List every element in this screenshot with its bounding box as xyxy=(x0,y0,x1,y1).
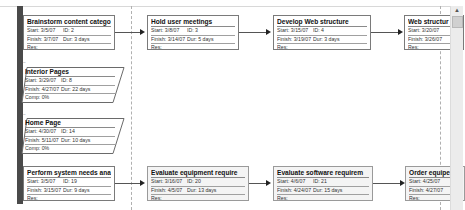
arrow-head-icon xyxy=(266,180,271,186)
finish-value: 4/24/07 xyxy=(294,187,311,193)
start-value: 3/8/07 xyxy=(165,27,179,33)
dur-label: Dur: xyxy=(61,137,71,143)
res-label: Res: xyxy=(151,195,162,203)
summary-name: Interior Pages xyxy=(25,67,115,77)
dependency-link xyxy=(372,183,402,184)
dur-label: Dur: xyxy=(187,187,197,193)
arrow-head-icon xyxy=(398,29,403,35)
finish-value: 3/7/07 xyxy=(44,36,58,42)
dur-value: 3 days xyxy=(74,36,89,42)
arrow-head-icon xyxy=(140,29,145,35)
task-name: Evaluate equipment require xyxy=(151,167,245,178)
dur-value: 3 days xyxy=(324,36,339,42)
task-node[interactable]: Evaluate software requirem Start: 4/6/07… xyxy=(273,166,373,201)
comp-label: Comp: xyxy=(25,94,40,102)
finish-value: 3/19/07 xyxy=(294,36,311,42)
dur-label: Dur: xyxy=(63,187,73,193)
res-label: Res: xyxy=(277,44,288,52)
task-node[interactable]: Evaluate equipment require Start: 3/16/0… xyxy=(147,166,249,201)
start-value: 3/5/07 xyxy=(41,27,55,33)
collapse-toggle-icon[interactable]: − xyxy=(23,59,26,65)
dur-value: 9 days xyxy=(74,187,89,193)
finish-label: Finish: xyxy=(27,187,42,193)
finish-label: Finish: xyxy=(277,187,292,193)
finish-label: Finish: xyxy=(277,36,292,42)
dur-value: 10 days xyxy=(72,137,90,143)
dur-value: 15 days xyxy=(324,187,342,193)
start-value: 4/30/07 xyxy=(39,128,56,134)
dependency-link xyxy=(248,183,268,184)
finish-value: 3/26/07 xyxy=(425,36,442,42)
id-value: 20 xyxy=(195,178,201,184)
id-value: 8 xyxy=(69,77,72,83)
scroll-thumb[interactable] xyxy=(452,16,463,28)
task-name: Perform system needs analy xyxy=(27,167,111,178)
finish-label: Finish: xyxy=(151,36,166,42)
comp-value: 0% xyxy=(42,145,50,153)
id-label: ID: xyxy=(313,27,320,33)
summary-node[interactable]: Interior Pages Start: 3/29/07ID: 8 Finis… xyxy=(21,67,125,103)
res-label: Res: xyxy=(408,44,419,52)
start-value: 4/25/07 xyxy=(423,178,440,184)
arrow-head-icon xyxy=(266,29,271,35)
id-label: ID: xyxy=(313,178,320,184)
dependency-link xyxy=(114,183,142,184)
task-name: Develop Web structure xyxy=(277,16,367,27)
task-node[interactable]: Perform system needs analy Start: 3/5/07… xyxy=(23,166,115,201)
task-node[interactable]: Hold user meetings Start: 3/8/07ID: 3 Fi… xyxy=(147,15,239,50)
id-value: 21 xyxy=(321,178,327,184)
task-node[interactable]: Brainstorm content categori Start: 3/5/0… xyxy=(23,15,115,50)
id-label: ID: xyxy=(61,128,68,134)
dur-value: 22 days xyxy=(72,86,90,92)
finish-value: 4/27/07 xyxy=(42,86,59,92)
start-label: Start: xyxy=(408,27,420,33)
res-label: Res: xyxy=(277,195,288,203)
start-label: Start: xyxy=(277,178,289,184)
id-label: ID: xyxy=(63,178,70,184)
vertical-scrollbar[interactable]: ▲ xyxy=(450,6,463,210)
task-name: Hold user meetings xyxy=(151,16,235,27)
top-border xyxy=(0,0,462,7)
finish-label: Finish: xyxy=(27,36,42,42)
res-label: Res: xyxy=(27,44,38,52)
finish-value: 5/11/07 xyxy=(42,137,59,143)
finish-label: Finish: xyxy=(409,187,424,193)
id-value: 4 xyxy=(321,27,324,33)
id-label: ID: xyxy=(63,27,70,33)
task-name: Brainstorm content categori xyxy=(27,16,111,27)
collapse-toggle-icon[interactable]: − xyxy=(23,111,26,117)
summary-node[interactable]: Home Page Start: 4/30/07ID: 14 Finish: 5… xyxy=(21,118,125,154)
start-label: Start: xyxy=(409,178,421,184)
start-label: Start: xyxy=(277,27,289,33)
dependency-link xyxy=(114,32,142,33)
id-value: 14 xyxy=(69,128,75,134)
start-value: 3/16/07 xyxy=(165,178,182,184)
id-label: ID: xyxy=(61,77,68,83)
dur-value: 5 days xyxy=(198,36,213,42)
summary-name: Home Page xyxy=(25,118,115,128)
finish-label: Finish: xyxy=(25,86,40,92)
dur-label: Dur: xyxy=(187,36,197,42)
id-label: ID: xyxy=(187,178,194,184)
finish-value: 3/15/07 xyxy=(44,187,61,193)
id-value: 3 xyxy=(195,27,198,33)
dur-label: Dur: xyxy=(313,187,323,193)
res-label: Res: xyxy=(409,195,420,203)
finish-value: 4/5/07 xyxy=(168,187,182,193)
id-value: 2 xyxy=(71,27,74,33)
scroll-up-arrow-icon[interactable]: ▲ xyxy=(451,6,463,15)
finish-label: Finish: xyxy=(25,137,40,143)
start-label: Start: xyxy=(151,27,163,33)
page-break-line xyxy=(131,6,132,210)
dur-label: Dur: xyxy=(313,36,323,42)
res-label: Res: xyxy=(151,44,162,52)
arrow-head-icon xyxy=(140,180,145,186)
start-label: Start: xyxy=(25,77,37,83)
task-name: Evaluate software requirem xyxy=(277,167,369,178)
finish-value: 4/27/07 xyxy=(426,187,443,193)
id-label: ID: xyxy=(187,27,194,33)
finish-label: Finish: xyxy=(151,187,166,193)
task-node[interactable]: Develop Web structure Start: 3/15/07ID: … xyxy=(273,15,371,50)
comp-value: 0% xyxy=(42,94,50,102)
